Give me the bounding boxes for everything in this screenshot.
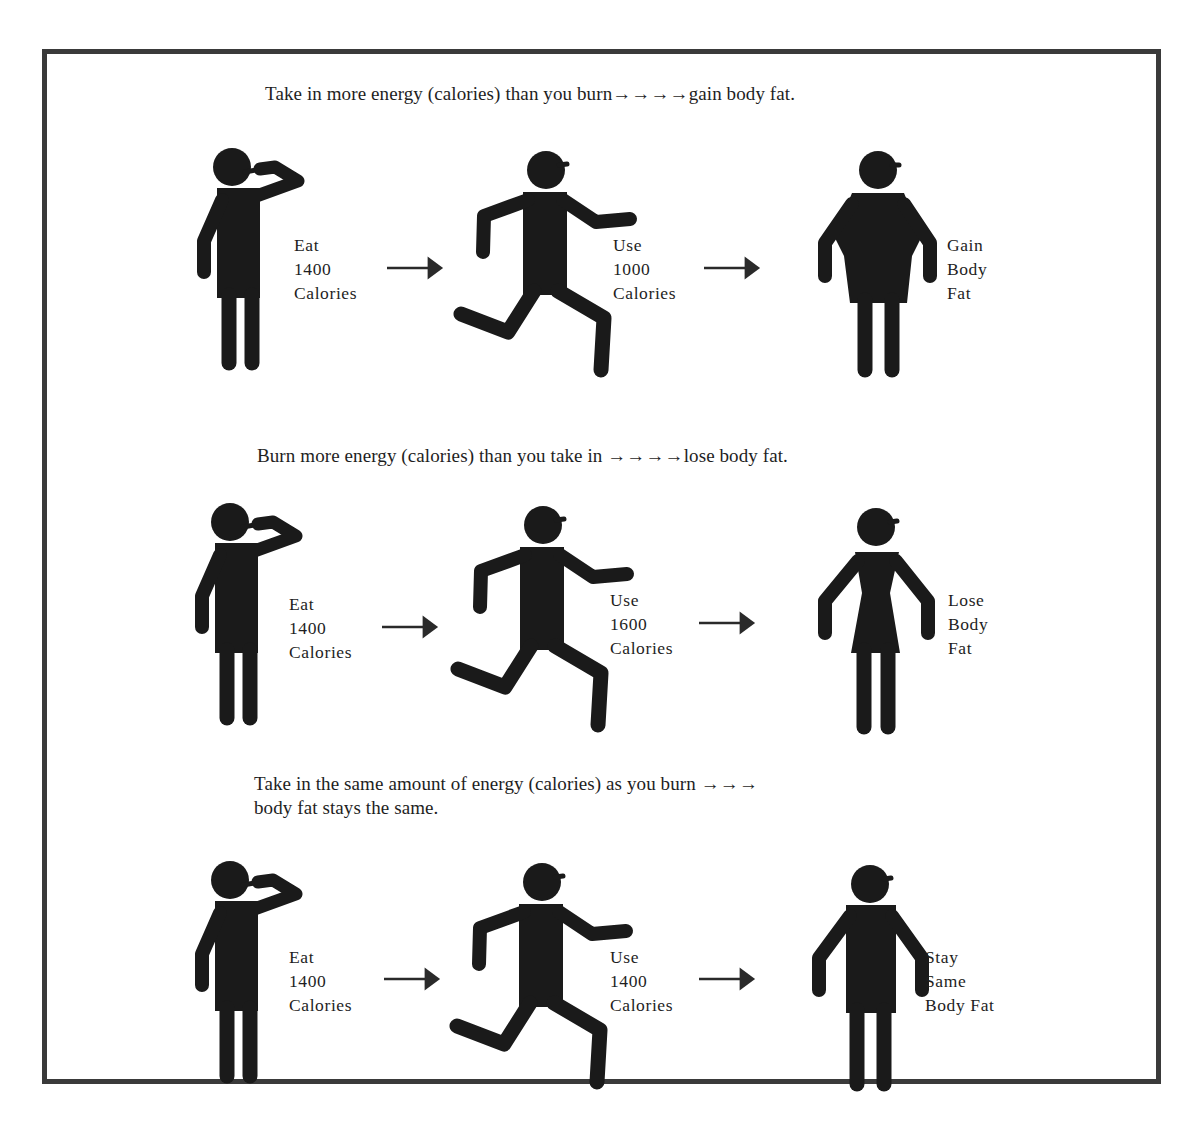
standing-person-icon [806,862,936,1092]
row-3-caption-line-1: Take in the same amount of energy (calor… [254,772,758,796]
row-3-eat-label: Eat 1400 Calories [289,945,352,1017]
row-2-result-label: Lose Body Fat [948,588,988,660]
arrow-right-icon [704,253,762,283]
row-2-eat-label: Eat 1400 Calories [289,592,352,664]
slimmer-person-icon [812,505,942,735]
arrow-right-icon [699,608,757,638]
row-1-caption: Take in more energy (calories) than you … [265,82,795,106]
row-3-result-label: Stay Same Body Fat [925,945,994,1017]
arrow-right-icon [382,612,440,642]
row-1-use-label: Use 1000 Calories [613,233,676,305]
arrow-right-icon [384,964,442,994]
row-1-result-label: Gain Body Fat [947,233,987,305]
arrow-right-icon [699,964,757,994]
row-2-use-label: Use 1600 Calories [610,588,673,660]
arrow-right-icon [387,253,445,283]
row-2-caption: Burn more energy (calories) than you tak… [257,444,788,468]
heavier-person-icon [812,148,942,378]
row-1-eat-label: Eat 1400 Calories [294,233,357,305]
row-3-use-label: Use 1400 Calories [610,945,673,1017]
row-3-caption-line-2: body fat stays the same. [254,796,438,820]
